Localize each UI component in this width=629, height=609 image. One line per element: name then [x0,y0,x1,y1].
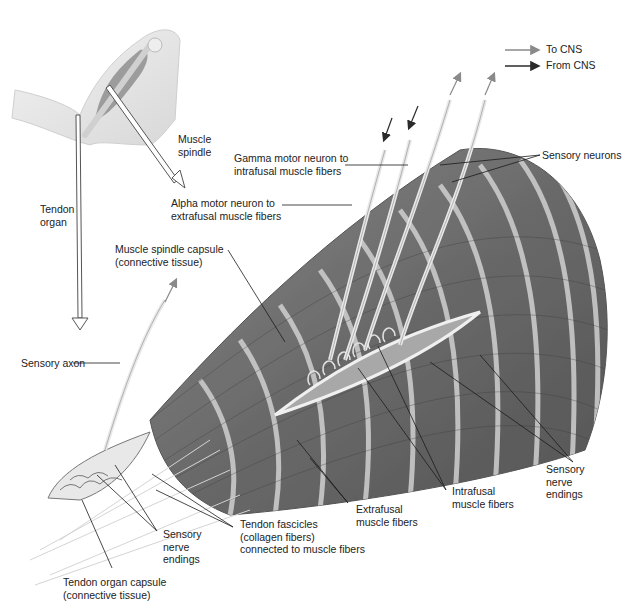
label-sensory-nerve-endings-right: Sensory nerve endings [546,463,585,501]
label-gamma-motor-neuron: Gamma motor neuron to intrafusal muscle … [234,152,348,177]
label-muscle-spindle-capsule: Muscle spindle capsule (connective tissu… [115,243,224,268]
label-sensory-neurons: Sensory neurons [542,149,621,162]
from-cns-arrow-1 [384,118,392,140]
arm-illustration [12,30,180,145]
label-alpha-motor-neuron: Alpha motor neuron to extrafusal muscle … [171,197,281,222]
legend-to-cns-label: To CNS [546,43,582,55]
label-tendon-organ-capsule: Tendon organ capsule (connective tissue) [63,576,166,601]
label-muscle-spindle: Muscle spindle [178,133,211,158]
legend-from-cns-label: From CNS [546,59,596,71]
label-intrafusal-muscle-fibers: Intrafusal muscle fibers [452,485,514,510]
label-tendon-fascicles: Tendon fascicles (collagen fibers) conne… [240,518,365,556]
to-cns-arrow-1 [450,74,460,95]
label-extrafusal-muscle-fibers: Extrafusal muscle fibers [356,503,418,528]
to-cns-arrow-2 [485,74,494,95]
label-tendon-organ: Tendon organ [40,203,74,228]
to-cns-arrow-axon [165,280,176,302]
from-cns-arrow-2 [409,106,418,128]
label-sensory-nerve-endings-left: Sensory nerve endings [163,528,202,566]
label-sensory-axon: Sensory axon [21,357,85,370]
